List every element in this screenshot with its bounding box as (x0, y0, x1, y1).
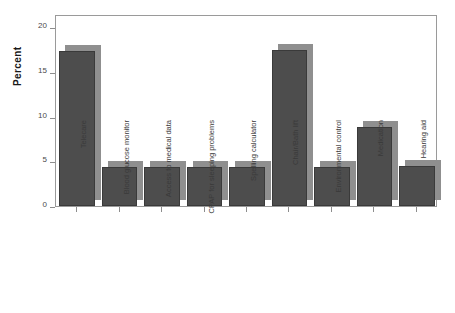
bar-body (144, 167, 180, 206)
bar-body (102, 167, 138, 206)
bar-body (272, 50, 308, 206)
bar-body (314, 167, 350, 206)
y-tick-15: 15 (0, 73, 55, 74)
y-tick-10: 10 (0, 118, 55, 119)
x-tick-label: Hearing aid (419, 120, 428, 215)
y-tick-mark (50, 162, 55, 163)
x-tick-mark (288, 207, 289, 212)
y-tick-0: 0 (0, 207, 55, 208)
x-tick-label: Access to medical data (164, 120, 173, 215)
bar-body (187, 167, 223, 206)
y-tick-label: 10 (38, 111, 47, 120)
x-tick-mark (161, 207, 162, 212)
y-tick-label: 15 (38, 66, 47, 75)
y-tick-20: 20 (0, 28, 55, 29)
x-tick-label: Telecare (79, 120, 88, 215)
y-tick-mark (50, 207, 55, 208)
bar-body (399, 166, 435, 206)
x-tick-label: Medication (376, 120, 385, 215)
x-tick-mark (416, 207, 417, 212)
x-tick-mark (119, 207, 120, 212)
x-tick-label: Spelling calculator (249, 120, 258, 215)
y-tick-5: 5 (0, 162, 55, 163)
y-tick-label: 0 (43, 200, 47, 209)
x-tick-mark (76, 207, 77, 212)
bar-chart-figure: Percent 05101520 TelecareBlood glucose m… (0, 0, 455, 313)
bar-body (59, 51, 95, 206)
y-tick-label: 20 (38, 21, 47, 30)
x-tick-mark (204, 207, 205, 212)
x-tick-label: Blood glucose monitor (122, 120, 131, 215)
x-tick-label: Chair/Bath lift (291, 120, 300, 215)
y-tick-label: 5 (43, 155, 47, 164)
x-tick-label: CPAP for sleeping problems (207, 120, 216, 215)
bar-body (229, 167, 265, 206)
bar-body (357, 127, 393, 206)
x-tick-label: Environmental control (334, 120, 343, 215)
y-tick-mark (50, 73, 55, 74)
x-tick-mark (373, 207, 374, 212)
y-tick-mark (50, 118, 55, 119)
x-tick-mark (246, 207, 247, 212)
x-tick-mark (331, 207, 332, 212)
y-tick-mark (50, 28, 55, 29)
